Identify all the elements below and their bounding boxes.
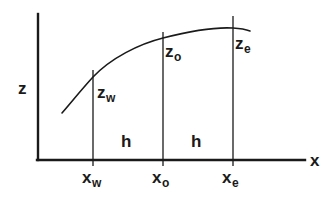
- label-z-o-base: z: [165, 42, 174, 61]
- label-x-e-subscript: e: [232, 176, 239, 190]
- x-axis-label: x: [310, 152, 319, 169]
- label-z-w-subscript: w: [106, 91, 115, 105]
- diagram-figure: z x zw zo ze h h xw xo xe: [0, 0, 332, 212]
- profile-curve: [62, 28, 250, 113]
- label-h-east: h: [191, 133, 201, 150]
- label-x-w-subscript: w: [92, 176, 101, 190]
- label-z-w-base: z: [97, 83, 106, 102]
- label-x-o-subscript: o: [162, 176, 169, 190]
- label-x-w-base: x: [82, 168, 91, 187]
- label-x-e-base: x: [222, 168, 231, 187]
- y-axis-label: z: [18, 80, 27, 97]
- label-z-o-subscript: o: [174, 50, 181, 64]
- label-z-e: ze: [235, 35, 250, 52]
- label-z-e-subscript: e: [244, 42, 251, 56]
- label-x-e: xe: [222, 169, 238, 186]
- label-x-w: xw: [82, 169, 101, 186]
- label-x-o-base: x: [152, 168, 161, 187]
- label-z-w: zw: [97, 84, 115, 101]
- label-z-o: zo: [165, 43, 181, 60]
- label-h-west: h: [121, 133, 131, 150]
- label-x-o: xo: [152, 169, 169, 186]
- label-z-e-base: z: [235, 34, 244, 53]
